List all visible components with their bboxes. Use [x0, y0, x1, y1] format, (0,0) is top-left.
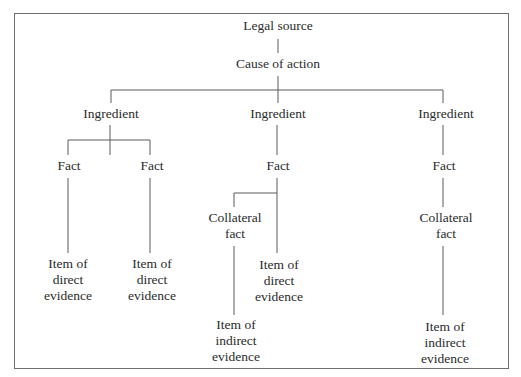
node-collateral-fact-middle: Collateral fact	[208, 210, 261, 242]
node-fact-right: Fact	[432, 158, 455, 174]
node-ingredient-left: Ingredient	[83, 106, 138, 122]
node-fact-left-1: Fact	[57, 158, 80, 174]
node-item-direct-left-1: Item of direct evidence	[44, 256, 92, 304]
node-item-indirect-middle: Item of indirect evidence	[212, 317, 260, 365]
node-cause-of-action: Cause of action	[236, 56, 320, 72]
node-legal-source: Legal source	[243, 18, 312, 34]
node-ingredient-right: Ingredient	[418, 106, 473, 122]
node-fact-left-2: Fact	[140, 158, 163, 174]
node-item-indirect-right: Item of indirect evidence	[421, 319, 469, 367]
node-ingredient-middle: Ingredient	[250, 106, 305, 122]
node-item-direct-left-2: Item of direct evidence	[128, 256, 176, 304]
node-fact-middle: Fact	[266, 158, 289, 174]
node-item-direct-middle: Item of direct evidence	[255, 257, 303, 305]
node-collateral-fact-right: Collateral fact	[419, 210, 472, 242]
